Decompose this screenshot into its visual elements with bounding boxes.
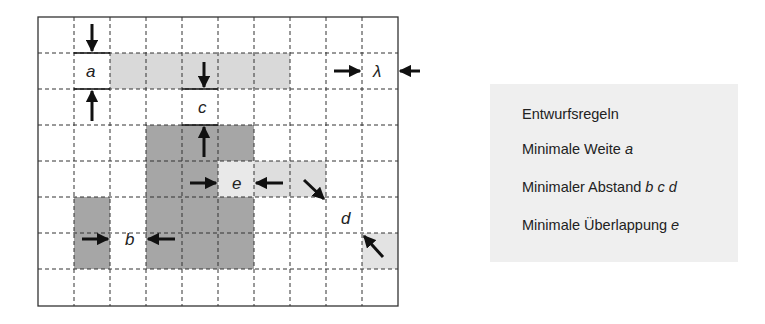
label-d: d (341, 209, 351, 228)
legend-rule-min-spacing: Minimaler Abstand b c d (522, 179, 677, 195)
label-b: b (125, 230, 134, 249)
legend-rule-symbol: b c d (645, 179, 676, 195)
legend-rule-min-overlap: Minimale Überlappung e (522, 217, 679, 233)
legend-rule-symbol: a (625, 141, 633, 157)
label-c: c (198, 98, 207, 117)
legend-rule-symbol: e (671, 217, 679, 233)
label-a: a (86, 62, 95, 81)
label-lambda: λ (372, 62, 381, 81)
design-rules-diagram: a c λ e d b (0, 0, 420, 324)
legend-panel: Entwurfsregeln Minimale Weite a Minimale… (490, 84, 738, 262)
wide-light-bar (110, 53, 290, 89)
legend-rule-text: Minimale Weite (522, 141, 625, 157)
legend-rule-text: Minimaler Abstand (522, 179, 645, 195)
legend-rule-min-width: Minimale Weite a (522, 141, 633, 157)
legend-heading: Entwurfsregeln (522, 106, 619, 122)
legend-rule-text: Minimale Überlappung (522, 217, 671, 233)
label-e: e (232, 174, 241, 193)
